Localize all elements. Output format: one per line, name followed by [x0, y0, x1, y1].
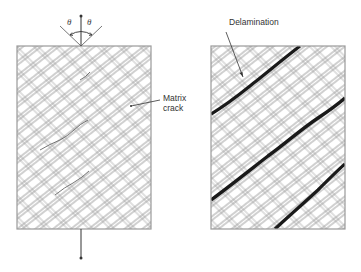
theta-left-label: θ: [67, 17, 71, 27]
matrix-crack-label: Matrix crack: [163, 93, 186, 113]
right-specimen: [211, 46, 345, 229]
load-arrow-bottom: [80, 229, 83, 260]
matrix-crack-label-line2: crack: [163, 103, 186, 113]
theta-right-label: θ: [87, 17, 91, 27]
delamination-label: Delamination: [229, 17, 279, 27]
left-specimen: [17, 46, 151, 229]
matrix-crack-label-line1: Matrix: [163, 93, 186, 103]
